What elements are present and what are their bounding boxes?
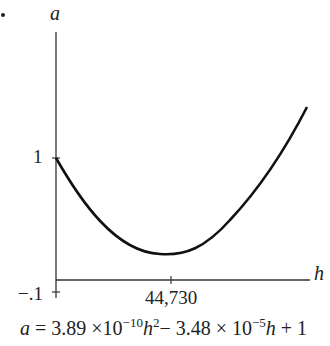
eq-part: − 3.48 × 10 <box>159 317 252 339</box>
data-curve <box>56 107 307 254</box>
y-tick-label-1: 1 <box>33 146 43 168</box>
eq-part: + 1 <box>276 317 307 339</box>
eq-var-a: a <box>20 317 30 339</box>
x-tick-label: 44,730 <box>145 287 197 309</box>
eq-var-h: h <box>143 317 153 339</box>
y-axis-label: a <box>50 2 60 25</box>
equation: a = 3.89 ×10−10h2− 3.48 × 10−5h + 1 <box>20 315 307 340</box>
eq-var-h: h <box>266 317 276 339</box>
x-axis-label: h <box>314 262 324 285</box>
eq-exp: −10 <box>123 315 143 330</box>
eq-part: = 3.89 ×10 <box>30 317 123 339</box>
eq-exp: −5 <box>252 315 266 330</box>
y-tick-label-neg: −.1 <box>18 283 43 305</box>
